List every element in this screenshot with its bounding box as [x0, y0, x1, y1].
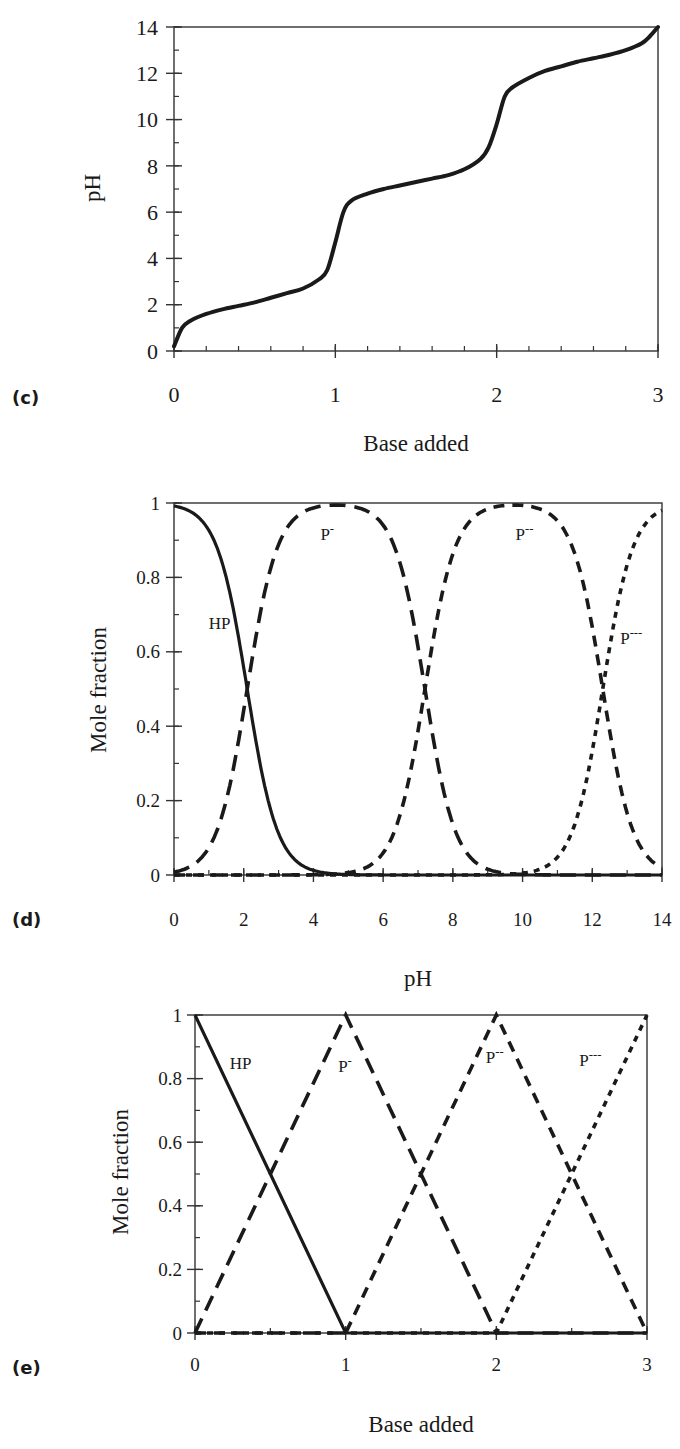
- y-tick-label: 1: [173, 1005, 183, 1026]
- x-tick-label: 3: [653, 382, 664, 407]
- y-tick-label: 0: [151, 865, 161, 886]
- figure: 012302468101214Base addedpH(c) 024681012…: [0, 0, 680, 1449]
- y-tick-label: 8: [147, 154, 158, 179]
- y-tick-label: 6: [147, 200, 158, 225]
- chart-panel-c: 012302468101214Base addedpH(c): [12, 15, 664, 456]
- y-tick-label: 0.4: [136, 716, 160, 737]
- x-tick-label: 4: [309, 909, 319, 930]
- x-tick-label: 8: [448, 909, 458, 930]
- chart-panel-d: 0246810121400.20.40.60.81pHMole fraction…: [12, 493, 672, 991]
- y-tick-label: 0.6: [158, 1132, 182, 1153]
- x-tick-label: 14: [653, 909, 673, 930]
- x-tick-label: 0: [190, 1354, 200, 1375]
- chart-panel-e: 012300.20.40.60.81Base addedMole fractio…: [12, 1005, 652, 1437]
- y-axis-title: Mole fraction: [108, 1109, 133, 1235]
- x-tick-label: 1: [330, 382, 341, 407]
- y-tick-label: 12: [136, 61, 158, 86]
- x-tick-label: 12: [583, 909, 602, 930]
- x-tick-label: 0: [169, 382, 180, 407]
- y-tick-label: 0.2: [136, 790, 160, 811]
- y-tick-label: 0.2: [158, 1259, 182, 1280]
- x-tick-label: 3: [642, 1354, 652, 1375]
- titration-curve: [174, 27, 658, 346]
- y-tick-label: 2: [147, 292, 158, 317]
- x-tick-label: 2: [491, 382, 502, 407]
- x-axis-title: pH: [404, 966, 432, 991]
- series-line-pm: [174, 505, 662, 875]
- series-label: P-: [320, 522, 334, 544]
- series-label: HP: [230, 1054, 252, 1073]
- x-tick-label: 6: [378, 909, 388, 930]
- y-tick-label: 0: [173, 1323, 183, 1344]
- series-group: [174, 27, 658, 346]
- series-label: P---: [579, 1048, 601, 1070]
- y-tick-label: 0.8: [136, 567, 160, 588]
- panel-label: (c): [12, 387, 39, 408]
- x-tick-label: 10: [513, 909, 532, 930]
- series-group: HPP-P--P---: [174, 505, 662, 875]
- series-label: HP: [209, 614, 231, 633]
- y-tick-label: 4: [147, 246, 158, 271]
- x-axis: 0123: [169, 344, 664, 407]
- panel-label: (e): [12, 1357, 41, 1378]
- y-tick-label: 0.8: [158, 1068, 182, 1089]
- y-tick-label: 0: [147, 339, 158, 364]
- series-group: HPP-P--P---: [195, 1015, 647, 1333]
- series-label: P-: [338, 1054, 352, 1076]
- y-axis-title: Mole fraction: [86, 627, 111, 753]
- y-axis-title: pH: [80, 174, 105, 202]
- x-axis: 02468101214: [169, 868, 672, 930]
- y-tick-label: 0.6: [136, 641, 160, 662]
- y-tick-label: 10: [136, 107, 158, 132]
- x-tick-label: 2: [492, 1354, 502, 1375]
- panel-label: (d): [12, 909, 41, 930]
- y-tick-label: 1: [151, 493, 161, 514]
- y-tick-label: 14: [136, 15, 158, 40]
- x-tick-label: 1: [341, 1354, 351, 1375]
- x-tick-label: 2: [239, 909, 249, 930]
- series-label: P--: [516, 522, 534, 544]
- x-tick-label: 0: [169, 909, 179, 930]
- x-axis-title: Base added: [363, 431, 469, 456]
- x-axis-title: Base added: [368, 1412, 474, 1437]
- y-tick-label: 0.4: [158, 1195, 182, 1216]
- series-label: P---: [620, 626, 642, 648]
- series-label: P--: [486, 1045, 504, 1067]
